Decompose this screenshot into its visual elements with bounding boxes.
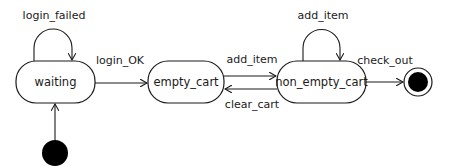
state-empty-cart: empty_cart — [148, 61, 224, 103]
transition-add-item: add_item — [224, 53, 278, 76]
transition-add-item-self: add_item — [297, 9, 348, 61]
final-state — [404, 68, 432, 96]
state-label-empty-cart: empty_cart — [153, 75, 219, 89]
transition-login-ok: login_OK — [95, 54, 147, 83]
transition-clear-cart: clear_cart — [225, 89, 280, 111]
transition-login-failed: login_failed — [23, 9, 86, 61]
transition-label-add-item-self: add_item — [297, 9, 348, 22]
transition-label-clear-cart: clear_cart — [225, 98, 280, 111]
state-label-non-empty-cart: non_empty_cart — [275, 75, 368, 89]
state-label-waiting: waiting — [35, 75, 77, 89]
transition-label-add-item: add_item — [226, 53, 277, 66]
transition-label-check-out: check_out — [357, 54, 413, 67]
state-diagram: waiting empty_cart non_empty_cart login_… — [0, 0, 454, 166]
state-non-empty-cart: non_empty_cart — [275, 61, 368, 103]
transition-label-login-failed: login_failed — [23, 9, 86, 22]
initial-state — [42, 104, 68, 166]
state-waiting: waiting — [16, 61, 95, 103]
transition-label-login-ok: login_OK — [96, 54, 145, 67]
